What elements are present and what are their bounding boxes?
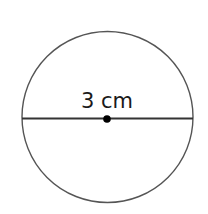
center-dot (103, 115, 111, 123)
circle-diagram: 3 cm (0, 0, 208, 214)
diameter-label: 3 cm (81, 89, 133, 113)
